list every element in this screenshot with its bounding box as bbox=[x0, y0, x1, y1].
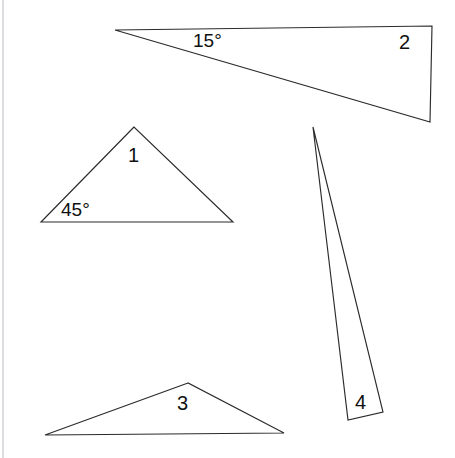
angle-label-45-degrees: 45° bbox=[61, 200, 90, 219]
angle-label-15-degrees: 15° bbox=[193, 31, 222, 50]
triangle-2-shape bbox=[115, 26, 432, 122]
triangle-label-2: 2 bbox=[399, 32, 410, 52]
triangles-drawing bbox=[0, 0, 455, 458]
triangle-3-shape bbox=[45, 383, 284, 435]
triangle-4-shape bbox=[313, 127, 383, 420]
figure-canvas: 15° 2 1 45° 3 4 bbox=[0, 0, 455, 458]
triangle-label-1: 1 bbox=[128, 145, 139, 165]
triangle-label-3: 3 bbox=[177, 393, 188, 413]
triangle-label-4: 4 bbox=[355, 392, 366, 412]
